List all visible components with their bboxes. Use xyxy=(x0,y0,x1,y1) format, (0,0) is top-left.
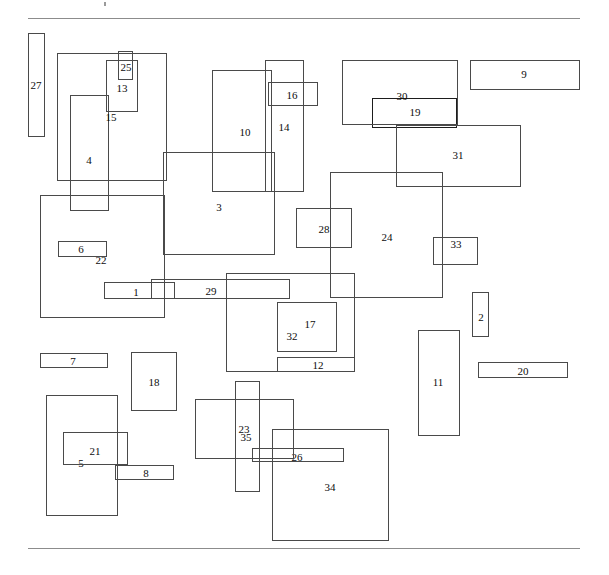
rectangle-27 xyxy=(28,33,45,137)
rectangle-9 xyxy=(470,60,580,90)
rectangle-15 xyxy=(57,53,167,181)
rectangle-7 xyxy=(40,353,108,368)
rectangle-14 xyxy=(265,60,304,192)
stray-mark xyxy=(104,2,106,6)
rectangle-33 xyxy=(433,237,478,265)
figure-canvas: 1234567891011121314151617181920212223242… xyxy=(0,0,609,575)
rectangle-21 xyxy=(63,432,128,465)
top-horizontal-rule xyxy=(28,18,580,19)
bottom-horizontal-rule xyxy=(28,548,580,549)
rectangle-18 xyxy=(131,352,177,411)
rectangle-20 xyxy=(478,362,568,378)
rectangle-10 xyxy=(212,70,272,192)
rectangle-25 xyxy=(118,51,133,80)
rectangle-22 xyxy=(40,195,165,318)
rectangle-8 xyxy=(115,465,174,480)
rectangle-35 xyxy=(195,399,294,459)
rectangle-32 xyxy=(277,302,337,352)
rectangle-16 xyxy=(268,82,318,106)
rectangle-31 xyxy=(396,125,521,187)
rectangle-30 xyxy=(342,60,458,125)
rectangle-29 xyxy=(151,279,290,299)
rectangle-2 xyxy=(472,292,489,337)
rectangle-28 xyxy=(296,208,352,248)
rectangle-11 xyxy=(418,330,460,436)
